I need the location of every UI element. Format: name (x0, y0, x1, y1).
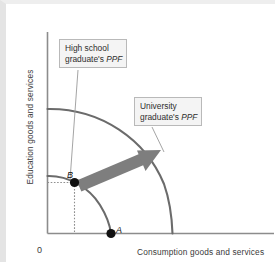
leader-line-university (152, 127, 164, 152)
callout-university-ppf: University graduate's PPF (134, 97, 202, 126)
x-axis-label: Consumption goods and services (137, 247, 264, 257)
leader-line-high-school (70, 70, 78, 180)
data-point-a (106, 229, 115, 238)
callout-university-line1: University (140, 101, 197, 112)
ppf-chart-svg (6, 4, 275, 262)
callout-university-line2-em: PPF (181, 112, 197, 122)
data-point-label-a: A (116, 225, 122, 235)
figure-panel: Education goods and services Consumption… (0, 0, 275, 262)
callout-high-school-line2-em: PPF (106, 54, 122, 64)
callout-high-school-line2: graduate's PPF (65, 54, 122, 65)
y-axis-label: Education goods and services (25, 57, 35, 197)
data-point-label-b: B (67, 170, 73, 180)
callout-university-line2-prefix: graduate's (140, 112, 181, 122)
chart-plot-area (6, 4, 275, 262)
callout-high-school-line1: High school (65, 43, 122, 54)
origin-label: 0 (37, 245, 42, 255)
callout-university-line2: graduate's PPF (140, 112, 197, 123)
callout-high-school-line2-prefix: graduate's (65, 54, 106, 64)
callout-high-school-ppf: High school graduate's PPF (59, 39, 127, 68)
ppf-shift-arrow (79, 150, 161, 186)
